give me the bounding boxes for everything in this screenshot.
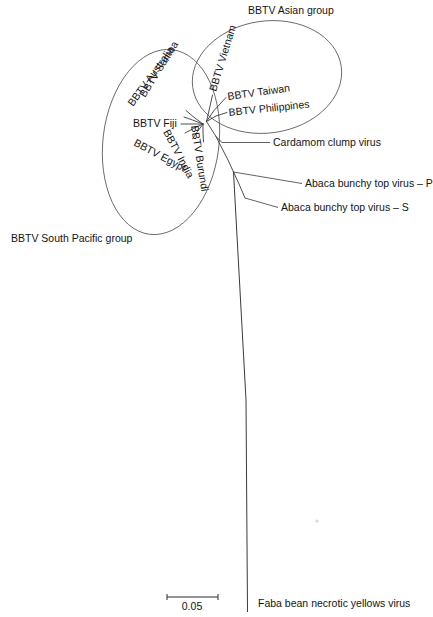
scale-bar: 0.05	[167, 594, 218, 612]
scale-bar-label: 0.05	[182, 600, 203, 612]
phylogenetic-tree-figure: BBTV Vietnam BBTV Taiwan BBTV Philippine…	[0, 0, 433, 617]
leader-abaca-bunchy-top-virus-p	[234, 172, 303, 184]
outer-branches	[207, 122, 303, 613]
tip-label-abaca-bunchy-top-virus-p: Abaca bunchy top virus – P	[305, 177, 433, 189]
tip-label-cardamom-clump-virus: Cardamom clump virus	[273, 136, 381, 148]
outer-taxon-labels: Cardamom clump virus Abaca bunchy top vi…	[258, 136, 433, 609]
leader-abaca-bunchy-top-virus-s	[245, 198, 278, 208]
tree-canvas: BBTV Vietnam BBTV Taiwan BBTV Philippine…	[0, 0, 433, 617]
tip-labels: BBTV Vietnam BBTV Taiwan BBTV Philippine…	[125, 23, 310, 192]
branch-faba-bean-necrotic-yellows-virus	[234, 172, 248, 612]
branch-bbtv-samoa	[186, 111, 203, 125]
scan-speck	[315, 519, 318, 522]
branch-abaca-bunchy-top-virus-s	[234, 172, 246, 198]
group-label-south-pacific: BBTV South Pacific group	[11, 232, 133, 244]
tip-label-abaca-bunchy-top-virus-s: Abaca bunchy top virus – S	[281, 201, 409, 213]
tip-label-bbtv-philippines: BBTV Philippines	[228, 98, 310, 118]
branch-bbtv-australia	[184, 117, 203, 124]
branch-abaca-bunchy-top-virus-p	[216, 137, 234, 173]
tip-label-bbtv-taiwan: BBTV Taiwan	[227, 81, 291, 102]
group-label-asian: BBTV Asian group	[248, 4, 334, 16]
tip-label-faba-bean-necrotic-yellows-virus: Faba bean necrotic yellows virus	[258, 597, 410, 609]
tip-label-bbtv-burundi: BBTV Burundi	[189, 124, 211, 192]
tip-label-bbtv-vietnam: BBTV Vietnam	[206, 23, 238, 92]
